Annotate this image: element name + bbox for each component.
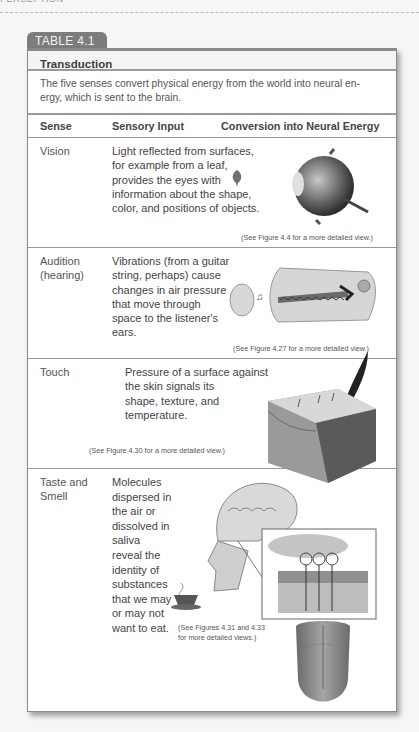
sense-label: Touch bbox=[40, 365, 69, 379]
text-line: Light reflected from surfaces, bbox=[112, 144, 259, 158]
table-title-row: Transduction bbox=[28, 51, 396, 71]
text-line: Smell bbox=[40, 489, 88, 503]
sense-label: Taste and Smell bbox=[40, 475, 88, 503]
text-line: substances bbox=[112, 577, 171, 592]
sensory-input-text: Vibrations (from a guitar string, perhap… bbox=[112, 254, 229, 340]
text-line: dispersed in bbox=[112, 490, 171, 505]
running-head: PERCEPTION bbox=[0, 0, 419, 13]
text-line: shape, texture, and bbox=[125, 394, 268, 408]
column-header-sensory-input: Sensory Input bbox=[112, 120, 184, 132]
text-line: Molecules bbox=[112, 475, 171, 490]
skin-feather-illustration bbox=[268, 351, 388, 491]
text-line: the air or bbox=[112, 504, 171, 519]
sensory-input-text: Molecules dispersed in the air or dissol… bbox=[112, 475, 171, 636]
column-header-sense: Sense bbox=[40, 120, 72, 132]
text-line: that we may bbox=[112, 592, 171, 607]
svg-text:♫: ♫ bbox=[256, 291, 264, 302]
text-line: Taste and bbox=[40, 475, 88, 489]
text-line: temperature. bbox=[125, 408, 268, 422]
table-title: Transduction bbox=[40, 58, 112, 70]
figure-caption: (See Figures 4.31 and 4.33 for more deta… bbox=[178, 623, 265, 643]
sensory-input-text: Pressure of a surface against the skin s… bbox=[125, 365, 268, 422]
text-line: (hearing) bbox=[40, 268, 84, 282]
text-line: Vibrations (from a guitar bbox=[112, 254, 229, 268]
text-line: the skin signals its bbox=[125, 379, 268, 393]
text-line: dissolved in bbox=[112, 519, 171, 534]
text-line: or may not bbox=[112, 606, 171, 621]
text-line: want to eat. bbox=[112, 621, 171, 636]
table-row-audition: Audition (hearing) Vibrations (from a gu… bbox=[28, 248, 396, 359]
leaf-icon bbox=[228, 168, 246, 188]
text-line: Pressure of a surface against bbox=[125, 365, 268, 379]
table-intro: The five senses convert physical energy … bbox=[28, 71, 396, 115]
text-line: saliva bbox=[112, 533, 171, 548]
figure-caption: (See Figure 4.30 for a more detailed vie… bbox=[89, 446, 225, 455]
sense-label: Vision bbox=[40, 144, 70, 158]
running-head-text: PERCEPTION bbox=[0, 0, 64, 4]
text-line: that move through bbox=[112, 297, 229, 311]
head-olfactory-illustration bbox=[178, 471, 378, 621]
text-line: color, and positions of objects. bbox=[112, 201, 259, 215]
text-line: Audition bbox=[40, 254, 84, 268]
eye-illustration bbox=[282, 146, 374, 226]
table-row-vision: Vision Light reflected from surfaces, fo… bbox=[28, 138, 396, 248]
text-line: changes in air pressure bbox=[112, 283, 229, 297]
table-box: Transduction The five senses convert phy… bbox=[27, 48, 397, 712]
ear-illustration: ♫ bbox=[228, 260, 388, 332]
table-row-taste-smell: Taste and Smell Molecules dispersed in t… bbox=[28, 469, 396, 717]
text-line: identity of bbox=[112, 563, 171, 578]
text-line: reveal the bbox=[112, 548, 171, 563]
text-line: (See Figures 4.31 and 4.33 bbox=[178, 623, 265, 633]
text-line: information about the shape, bbox=[112, 187, 259, 201]
figure-caption: (See Figure 4.4 for a more detailed view… bbox=[241, 233, 373, 242]
sense-label: Audition (hearing) bbox=[40, 254, 84, 282]
teacup-illustration bbox=[169, 581, 203, 611]
text-line: ears. bbox=[112, 325, 229, 339]
table-tab-label: TABLE 4.1 bbox=[27, 32, 107, 49]
column-header-conversion: Conversion into Neural Energy bbox=[221, 120, 379, 132]
tongue-illustration bbox=[290, 619, 356, 715]
text-line: string, perhaps) cause bbox=[112, 268, 229, 282]
column-headers: Sense Sensory Input Conversion into Neur… bbox=[28, 115, 396, 138]
text-line: space to the listener's bbox=[112, 311, 229, 325]
text-line: for more detailed views.) bbox=[178, 633, 265, 643]
